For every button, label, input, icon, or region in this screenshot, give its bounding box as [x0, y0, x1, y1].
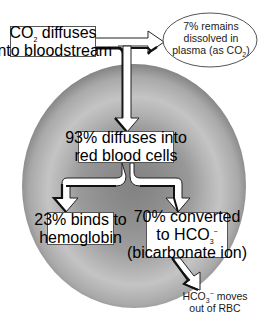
node-out: HCO3− moves out of RBC [178, 290, 252, 314]
node-plasma-line1: 7% remains [166, 20, 256, 32]
node-co2-diffuses-line1: CO2 diffuses [9, 24, 96, 42]
node-hemoglobin-line2: hemoglobin [39, 229, 122, 247]
node-bicarbonate-line3: (bicarbonate ion) [127, 244, 247, 262]
text: CO [9, 24, 33, 41]
node-hemoglobin-line1: 23% binds to [34, 211, 127, 229]
red-blood-cell-shape [22, 64, 246, 308]
node-rbc-line1: 93% diffuses into [65, 129, 187, 147]
node-co2-diffuses-line2: into bloodstream [0, 42, 112, 60]
node-bicarbonate: 70% converted to HCO3− (bicarbonate ion) [146, 212, 228, 258]
node-hemoglobin: 23% binds to hemoglobin [47, 212, 114, 245]
node-out-line2: out of RBC [178, 302, 252, 314]
node-plasma: 7% remains dissolved in plasma (as CO2) [166, 20, 256, 56]
node-co2-diffuses: CO2 diffuses into bloodstream [10, 26, 96, 57]
text: plasma (as CO [172, 44, 242, 56]
text: to HCO [156, 226, 209, 243]
superscript: − [214, 228, 218, 235]
text: HCO [182, 290, 205, 302]
text: moves [214, 290, 248, 302]
node-out-line1: HCO3− moves [178, 290, 252, 302]
text: diffuses [37, 24, 96, 41]
node-plasma-line3: plasma (as CO2) [166, 44, 256, 56]
diagram-canvas: CO2 diffuses into bloodstream 7% remains… [0, 0, 261, 322]
node-plasma-line2: dissolved in [166, 32, 256, 44]
node-bicarbonate-line1: 70% converted [134, 208, 241, 226]
node-bicarbonate-line2: to HCO3− [156, 226, 217, 244]
node-rbc: 93% diffuses into red blood cells [78, 131, 174, 163]
text: ) [246, 44, 250, 56]
node-rbc-line2: red blood cells [74, 147, 177, 165]
